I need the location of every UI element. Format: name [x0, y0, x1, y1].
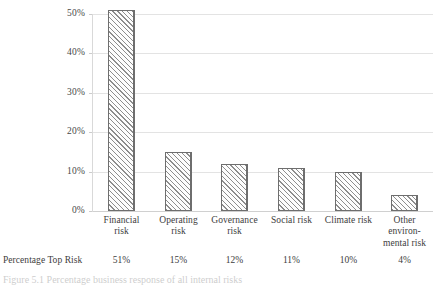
- bar: [335, 172, 362, 211]
- x-category-label: Otherenviron-mental risk: [374, 215, 435, 249]
- y-tick-mark: [89, 211, 92, 212]
- y-tick-label: 0%: [39, 206, 85, 216]
- table-cell-value: 12%: [206, 255, 263, 266]
- x-category-label-line: Operating: [148, 215, 209, 226]
- y-tick-mark: [89, 93, 92, 94]
- y-tick-label: 10%: [39, 167, 85, 177]
- x-category-label-line: Governance: [204, 215, 265, 226]
- y-tick-mark: [89, 172, 92, 173]
- x-category-label-line: Climate risk: [318, 215, 379, 226]
- y-tick-label: 20%: [39, 127, 85, 137]
- figure-bar-chart: 0%10%20%30%40%50% FinancialriskOperating…: [0, 0, 437, 286]
- bar: [108, 10, 135, 211]
- x-category-label-line: environ-: [374, 226, 435, 237]
- table-row-header: Percentage Top Risk: [3, 255, 82, 266]
- x-category-label: Climate risk: [318, 215, 379, 226]
- x-category-label: Governancerisk: [204, 215, 265, 238]
- bar: [221, 164, 248, 211]
- gridline: [93, 211, 433, 212]
- table-cell-value: 51%: [93, 255, 150, 266]
- bar: [165, 152, 192, 211]
- figure-caption: Figure 5.1 Percentage business response …: [3, 274, 242, 286]
- x-category-label-line: mental risk: [374, 238, 435, 249]
- y-tick-label: 30%: [39, 88, 85, 98]
- bar: [391, 195, 418, 211]
- x-category-label-line: risk: [204, 226, 265, 237]
- x-category-label-line: risk: [91, 226, 152, 237]
- y-tick-mark: [89, 132, 92, 133]
- y-tick-mark: [89, 14, 92, 15]
- table-cell-value: 11%: [263, 255, 320, 266]
- x-category-label: Financialrisk: [91, 215, 152, 238]
- y-tick-label: 50%: [39, 9, 85, 19]
- table-cell-value: 10%: [320, 255, 377, 266]
- table-cell-value: 4%: [376, 255, 433, 266]
- x-category-label-line: risk: [148, 226, 209, 237]
- bar: [278, 168, 305, 211]
- table-cell-value: 15%: [150, 255, 207, 266]
- y-tick-mark: [89, 53, 92, 54]
- y-tick-label: 40%: [39, 48, 85, 58]
- x-category-label-line: Financial: [91, 215, 152, 226]
- plot-area: [93, 14, 433, 211]
- x-category-label: Social risk: [261, 215, 322, 226]
- x-category-label-line: Social risk: [261, 215, 322, 226]
- x-category-label-line: Other: [374, 215, 435, 226]
- x-category-label: Operatingrisk: [148, 215, 209, 238]
